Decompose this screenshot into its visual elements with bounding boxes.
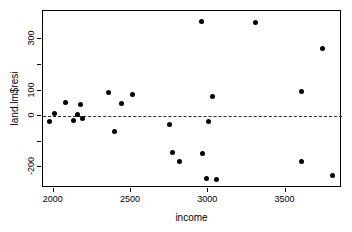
y-axis-tick [37, 141, 41, 142]
x-axis-tick-label: 2500 [120, 194, 140, 204]
data-point [299, 159, 304, 164]
data-point [71, 118, 76, 123]
data-point [106, 90, 111, 95]
data-point [299, 89, 304, 94]
x-axis-tick [53, 188, 54, 192]
x-axis-tick [207, 188, 208, 192]
y-axis-tick-label: 300 [26, 21, 36, 55]
data-point [206, 119, 211, 124]
data-point [330, 173, 335, 178]
data-point [130, 92, 135, 97]
x-axis-title: income [175, 212, 207, 223]
y-axis-tick [37, 115, 41, 116]
scatter-plot-figure: 2000250030003500-2000100300 income land.… [0, 0, 352, 232]
x-axis-tick-label: 3000 [197, 194, 217, 204]
data-point [177, 159, 182, 164]
data-point [119, 101, 124, 106]
data-point [112, 129, 117, 134]
y-axis-tick-label: -200 [26, 149, 36, 183]
data-point [320, 46, 325, 51]
y-axis-tick [37, 64, 41, 65]
data-point [204, 176, 209, 181]
data-point [253, 20, 258, 25]
plot-area-frame [42, 10, 341, 187]
x-axis-tick [285, 188, 286, 192]
data-point [170, 150, 175, 155]
zero-reference-line [43, 116, 342, 117]
x-axis-tick [130, 188, 131, 192]
data-point [75, 112, 80, 117]
data-point [167, 122, 172, 127]
y-axis-title: land.lm$resi [8, 64, 19, 134]
data-point [80, 116, 85, 121]
y-axis-tick-label: 100 [26, 73, 36, 107]
plot-panel [43, 11, 340, 186]
data-point [47, 119, 52, 124]
y-axis-tick [37, 38, 41, 39]
y-axis-tick [37, 166, 41, 167]
data-point [63, 100, 68, 105]
x-axis-tick-label: 3500 [275, 194, 295, 204]
data-point [78, 102, 83, 107]
y-axis-tick [37, 90, 41, 91]
x-axis-tick-label: 2000 [43, 194, 63, 204]
data-point [214, 177, 219, 182]
data-point [200, 151, 205, 156]
data-point [199, 19, 204, 24]
data-point [210, 94, 215, 99]
